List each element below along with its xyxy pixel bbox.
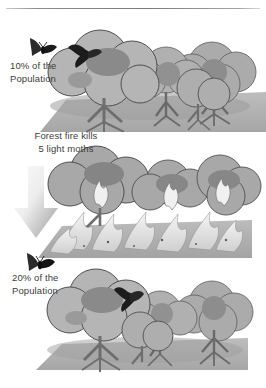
figure-root: 10% of the Population Forest fire kills …	[0, 0, 266, 388]
top-horizontal-rule	[6, 8, 260, 9]
bottom-population-label: 20% of the Population	[12, 272, 88, 297]
down-arrow-icon	[12, 166, 60, 242]
burning-tree-right	[197, 155, 261, 215]
fire-event-label: Forest fire kills 5 light moths	[14, 130, 118, 155]
top-population-label: 10% of the Population	[10, 60, 82, 85]
dark-moth-icon	[26, 36, 60, 62]
